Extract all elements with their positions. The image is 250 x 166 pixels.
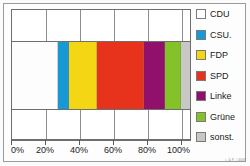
legend-swatch-icon	[196, 30, 206, 40]
plot-area	[11, 9, 191, 140]
bar-segment-csu	[58, 42, 69, 109]
legend-label: FDP	[210, 50, 228, 60]
legend-label: CSU.	[210, 30, 232, 40]
legend-label: CDU	[210, 9, 230, 19]
bar-segment-cdu	[12, 42, 58, 109]
legend-label: Grüne	[210, 112, 235, 122]
legend-swatch-icon	[196, 9, 206, 19]
legend-item-spd[interactable]: SPD	[196, 70, 229, 82]
x-axis-label-100: 100%	[167, 145, 190, 155]
chart-root: 0%20%40%60%80%100% CDUCSU.FDPSPDLinkeGrü…	[0, 0, 250, 166]
x-axis-labels: 0%20%40%60%80%100%	[0, 145, 200, 159]
legend-swatch-icon	[196, 132, 206, 142]
bar-segment-linke	[144, 42, 165, 109]
x-axis-label-60: 60%	[104, 145, 122, 155]
legend-item-sonst[interactable]: sonst.	[196, 131, 234, 143]
legend-swatch-icon	[196, 91, 206, 101]
legend-item-cdu[interactable]: CDU	[196, 8, 230, 20]
chart-legend: CDUCSU.FDPSPDLinkeGrünesonst.	[196, 8, 246, 156]
legend-label: SPD	[210, 71, 229, 81]
bar-segment-grne	[165, 42, 181, 109]
stacked-bar	[12, 41, 190, 110]
legend-item-csu[interactable]: CSU.	[196, 29, 232, 41]
legend-item-grne[interactable]: Grüne	[196, 111, 235, 123]
bar-segment-spd	[97, 42, 143, 109]
legend-item-fdp[interactable]: FDP	[196, 49, 228, 61]
legend-swatch-icon	[196, 50, 206, 60]
legend-label: sonst.	[210, 132, 234, 142]
bar-segment-sonst	[181, 42, 190, 109]
x-axis-label-40: 40%	[70, 145, 88, 155]
legend-item-linke[interactable]: Linke	[196, 90, 232, 102]
legend-swatch-icon	[196, 71, 206, 81]
bar-segment-fdp	[69, 42, 97, 109]
credit-text: i. & P. / 4008	[225, 158, 246, 162]
x-axis-label-80: 80%	[138, 145, 156, 155]
x-axis-label-0: 0%	[11, 145, 24, 155]
legend-swatch-icon	[196, 112, 206, 122]
x-axis-label-20: 20%	[36, 145, 54, 155]
legend-label: Linke	[210, 91, 232, 101]
